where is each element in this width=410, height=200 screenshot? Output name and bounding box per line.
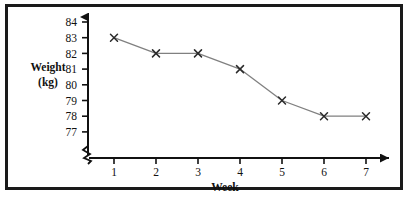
weight-series (111, 34, 370, 120)
y-tick-label-77: 77 (66, 126, 78, 138)
x-tick-label-6: 6 (321, 166, 327, 178)
x-tick-label-7: 7 (363, 166, 369, 178)
x-tick-label-2: 2 (153, 166, 159, 178)
weight-series-line (114, 38, 366, 117)
chart-screenshot: 84 83 82 81 80 79 78 77 (0, 0, 410, 200)
y-tick-label-81: 81 (66, 63, 78, 75)
y-tick-label-79: 79 (66, 95, 78, 107)
data-point-week-1 (111, 34, 118, 41)
y-tick-label-84: 84 (66, 16, 78, 28)
x-tick-label-5: 5 (279, 166, 285, 178)
x-tick-label-4: 4 (237, 166, 243, 178)
y-tick-label-82: 82 (66, 48, 78, 60)
x-axis: 1 2 3 4 5 6 7 (89, 158, 389, 178)
y-axis-title-line1: Weight (30, 61, 65, 74)
y-axis-title: Weight (kg) (30, 61, 65, 89)
x-tick-label-1: 1 (111, 166, 117, 178)
data-point-week-5 (279, 97, 286, 104)
y-tick-label-83: 83 (66, 32, 78, 44)
y-tick-label-80: 80 (66, 79, 78, 91)
weight-series-markers (111, 34, 370, 120)
x-axis-tick-labels: 1 2 3 4 5 6 7 (111, 166, 369, 178)
weight-vs-week-line-chart: 84 83 82 81 80 79 78 77 (0, 0, 410, 200)
y-axis-title-line2: (kg) (38, 76, 58, 89)
y-axis-tick-labels: 84 83 82 81 80 79 78 77 (66, 16, 78, 138)
y-axis: 84 83 82 81 80 79 78 77 (66, 16, 89, 155)
x-tick-label-3: 3 (195, 166, 201, 178)
y-tick-label-78: 78 (66, 110, 78, 122)
chart-svg: 84 83 82 81 80 79 78 77 (0, 0, 410, 200)
data-point-week-4 (237, 66, 244, 73)
x-axis-title: Week (211, 181, 239, 193)
